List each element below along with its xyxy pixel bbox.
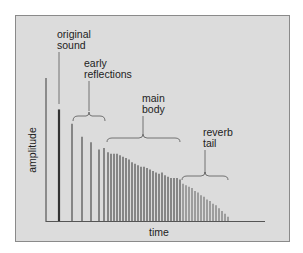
early-reflections-label-line2: reflections <box>84 68 132 80</box>
reverb-tail-label-line2: tail <box>203 137 216 149</box>
x-axis-label: time <box>149 226 169 238</box>
y-axis-label: amplitude <box>26 127 38 173</box>
main-body-label-line2: body <box>142 103 166 115</box>
reverb-tail-brace <box>182 172 228 180</box>
original-sound-label-line2: sound <box>57 39 86 51</box>
main-body-brace <box>107 134 180 142</box>
early-reflections-brace <box>73 112 105 121</box>
impulse-response-plot: time amplitude original sound early refl… <box>0 0 303 253</box>
